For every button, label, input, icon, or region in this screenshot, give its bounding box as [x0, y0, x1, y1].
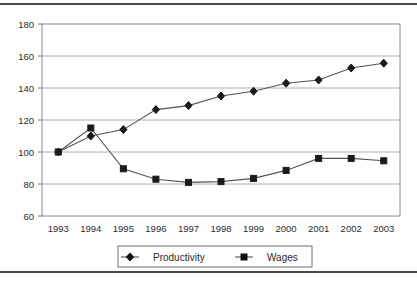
y-axis-tick-label: 100	[18, 147, 34, 158]
legend-label: Productivity	[153, 252, 205, 263]
y-axis-tick-label: 160	[18, 51, 34, 62]
legend-marker-square	[241, 254, 247, 260]
x-axis-tick-label: 2002	[341, 223, 362, 234]
y-axis-tick-label: 180	[18, 19, 34, 30]
x-axis-tick-label: 1993	[48, 223, 69, 234]
x-axis-tick-label: 1999	[243, 223, 264, 234]
y-axis-tick-label: 60	[23, 211, 34, 222]
legend-label: Wages	[267, 252, 298, 263]
data-point	[251, 175, 257, 181]
chart-figure: 6080100120140160180 19931994199519961997…	[0, 0, 417, 285]
x-axis-tick-label: 1997	[178, 223, 199, 234]
x-axis-tick-label: 1994	[80, 223, 101, 234]
x-axis-tick-label: 1996	[145, 223, 166, 234]
x-axis-tick-label: 1998	[210, 223, 231, 234]
y-axis-tick-label: 140	[18, 83, 34, 94]
data-point	[153, 176, 159, 182]
data-point	[348, 155, 354, 161]
plot-area	[42, 24, 400, 216]
y-axis-tick-label: 120	[18, 115, 34, 126]
data-point	[316, 155, 322, 161]
line-chart: 6080100120140160180 19931994199519961997…	[0, 0, 417, 285]
x-axis-tick-label: 1995	[113, 223, 134, 234]
x-axis-tick-label: 2003	[373, 223, 394, 234]
data-point	[381, 158, 387, 164]
chart-legend: ProductivityWages	[118, 246, 312, 267]
x-axis: 1993199419951996199719981999200020012002…	[48, 223, 395, 234]
data-point	[120, 166, 126, 172]
data-point	[88, 125, 94, 131]
data-point	[55, 149, 61, 155]
data-point	[283, 167, 289, 173]
y-axis: 6080100120140160180	[18, 19, 42, 222]
y-axis-tick-label: 80	[23, 179, 34, 190]
data-point	[218, 179, 224, 185]
x-axis-tick-label: 2001	[308, 223, 329, 234]
x-axis-tick-label: 2000	[276, 223, 297, 234]
data-point	[185, 179, 191, 185]
